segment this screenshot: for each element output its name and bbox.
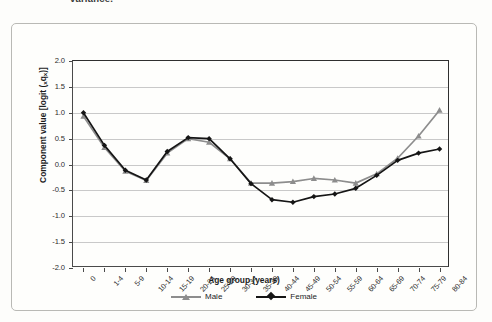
x-axis-title: Age group (years) — [12, 275, 476, 285]
x-tick-mark — [188, 268, 189, 272]
x-tick-mark — [230, 268, 231, 272]
legend-item-female[interactable]: Female — [256, 292, 317, 301]
x-tick-mark — [419, 268, 420, 272]
y-tick-mark — [69, 268, 73, 269]
y-axis-title: Component value [logit (xqx)] — [38, 30, 48, 220]
series-line-male — [83, 110, 439, 183]
caption-partial-text: variance. — [70, 0, 113, 4]
x-tick-mark — [293, 268, 294, 272]
data-point-marker — [436, 107, 442, 113]
x-tick-mark — [125, 268, 126, 272]
x-tick-mark — [377, 268, 378, 272]
data-point-marker — [332, 191, 337, 196]
x-tick-mark — [398, 268, 399, 272]
legend-label-female: Female — [290, 292, 317, 301]
x-tick-mark — [167, 268, 168, 272]
x-tick-mark — [146, 268, 147, 272]
x-tick-mark — [209, 268, 210, 272]
x-tick-mark — [272, 268, 273, 272]
data-point-marker — [437, 146, 442, 151]
y-tick-label: -2.0 — [41, 263, 65, 272]
plot-area: 2.01.51.00.50.0-0.5-1.0-1.5-2.001-45-910… — [72, 60, 449, 267]
series-female — [81, 110, 442, 205]
legend-item-male[interactable]: Male — [171, 292, 222, 301]
figure-container: 2.01.51.00.50.0-0.5-1.0-1.5-2.001-45-910… — [11, 23, 477, 311]
x-tick-mark — [440, 268, 441, 272]
chart-legend: Male Female — [12, 292, 476, 301]
legend-label-male: Male — [205, 292, 222, 301]
data-point-marker — [290, 200, 295, 205]
caption-strip: variance. — [0, 0, 492, 16]
x-tick-mark — [104, 268, 105, 272]
series-layer — [73, 61, 450, 268]
x-tick-mark — [314, 268, 315, 272]
legend-marker-male-icon — [171, 292, 201, 301]
x-tick-mark — [356, 268, 357, 272]
series-line-female — [83, 113, 439, 203]
legend-marker-female-icon — [256, 292, 286, 301]
x-tick-mark — [83, 268, 84, 272]
y-tick-label: -1.5 — [41, 237, 65, 246]
x-tick-mark — [251, 268, 252, 272]
data-point-marker — [416, 150, 421, 155]
data-point-marker — [311, 194, 316, 199]
x-tick-mark — [335, 268, 336, 272]
